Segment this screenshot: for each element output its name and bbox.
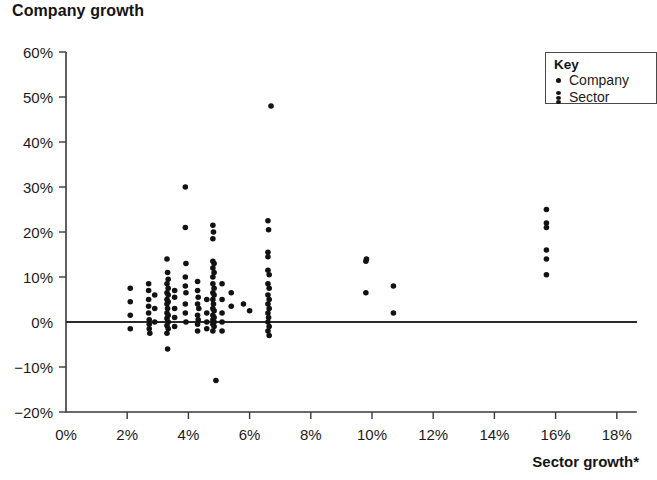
data-point bbox=[544, 207, 550, 213]
data-point bbox=[195, 279, 201, 285]
data-point bbox=[204, 310, 210, 316]
data-point bbox=[268, 103, 274, 109]
data-point bbox=[363, 290, 369, 296]
data-point bbox=[172, 306, 178, 312]
data-point bbox=[172, 288, 178, 294]
data-point bbox=[544, 256, 550, 262]
data-point bbox=[183, 261, 189, 267]
data-point bbox=[241, 301, 247, 307]
data-point bbox=[183, 283, 189, 289]
data-point bbox=[204, 319, 210, 325]
sector-dot-stack-marker-icon bbox=[554, 91, 563, 104]
legend-label-sector: Sector bbox=[569, 89, 609, 106]
data-point bbox=[152, 319, 158, 325]
legend-title: Key bbox=[554, 57, 656, 72]
data-point bbox=[544, 225, 550, 231]
data-point bbox=[172, 294, 178, 300]
y-axis-tick-label: 20% bbox=[23, 224, 53, 241]
data-point bbox=[146, 297, 152, 303]
data-points-layer bbox=[127, 103, 549, 383]
data-point bbox=[210, 222, 216, 228]
y-axis-tick-label: −10% bbox=[14, 359, 53, 376]
legend-item-sector: Sector bbox=[554, 89, 656, 106]
y-axis-tick-label: −20% bbox=[14, 404, 53, 421]
y-axis-tick-label: 60% bbox=[23, 44, 53, 61]
data-point bbox=[183, 310, 189, 316]
data-point bbox=[213, 378, 219, 384]
company-dot-marker-icon bbox=[554, 78, 563, 83]
data-point bbox=[211, 229, 217, 235]
axis-spine bbox=[66, 52, 637, 412]
y-axis-tick-label: 10% bbox=[23, 269, 53, 286]
data-point bbox=[265, 254, 271, 260]
y-axis-tick-group: 60%50%40%30%20%10%0%−10%−20% bbox=[14, 44, 66, 421]
x-axis-title: Sector growth* bbox=[532, 453, 639, 470]
legend-item-company: Company bbox=[554, 72, 656, 89]
data-point bbox=[195, 294, 201, 300]
data-point bbox=[183, 301, 189, 307]
data-point bbox=[228, 290, 234, 296]
data-point bbox=[172, 315, 178, 321]
data-point bbox=[266, 227, 272, 233]
data-point bbox=[152, 292, 158, 298]
x-axis-tick-label: 14% bbox=[479, 426, 509, 443]
data-point bbox=[164, 256, 170, 262]
data-point bbox=[219, 297, 225, 303]
y-axis-tick-label: 30% bbox=[23, 179, 53, 196]
data-point bbox=[228, 303, 234, 309]
data-point bbox=[146, 288, 152, 294]
x-axis-tick-group: 0%2%4%6%8%10%12%14%16%18% bbox=[55, 412, 632, 443]
data-point bbox=[204, 326, 210, 332]
data-point bbox=[147, 330, 153, 336]
legend-key-box: Key Company Sector bbox=[545, 52, 657, 104]
data-point bbox=[391, 310, 397, 316]
x-axis-tick-label: 4% bbox=[178, 426, 200, 443]
data-point bbox=[183, 225, 189, 231]
data-point bbox=[195, 321, 201, 327]
data-point bbox=[219, 319, 225, 325]
y-axis-tick-label: 40% bbox=[23, 134, 53, 151]
data-point bbox=[127, 326, 133, 332]
data-point bbox=[172, 324, 178, 330]
x-axis-tick-label: 12% bbox=[418, 426, 448, 443]
x-axis-tick-label: 0% bbox=[55, 426, 77, 443]
data-point bbox=[210, 236, 216, 242]
data-point bbox=[265, 218, 271, 224]
data-point bbox=[219, 310, 225, 316]
data-point bbox=[165, 270, 171, 276]
data-point bbox=[364, 256, 370, 262]
data-point bbox=[127, 312, 133, 318]
x-axis-tick-label: 18% bbox=[602, 426, 632, 443]
data-point bbox=[183, 184, 189, 190]
data-point bbox=[127, 285, 133, 291]
data-point bbox=[195, 288, 201, 294]
data-point bbox=[127, 299, 133, 305]
data-point bbox=[391, 283, 397, 289]
data-point bbox=[544, 247, 550, 253]
data-point bbox=[183, 319, 189, 325]
data-point bbox=[544, 272, 550, 278]
data-point bbox=[152, 306, 158, 312]
data-point bbox=[165, 346, 171, 352]
x-axis-tick-label: 2% bbox=[116, 426, 138, 443]
data-point bbox=[219, 281, 225, 287]
data-point bbox=[210, 274, 216, 280]
data-point bbox=[219, 328, 225, 334]
x-axis-tick-label: 10% bbox=[357, 426, 387, 443]
data-point bbox=[266, 285, 272, 291]
data-point bbox=[210, 328, 216, 334]
y-axis-tick-label: 50% bbox=[23, 89, 53, 106]
x-axis-tick-label: 16% bbox=[541, 426, 571, 443]
data-point bbox=[183, 290, 189, 296]
data-point bbox=[266, 272, 272, 278]
x-axis-tick-label: 8% bbox=[300, 426, 322, 443]
y-axis-tick-label: 0% bbox=[31, 314, 53, 331]
data-point bbox=[146, 303, 152, 309]
legend-label-company: Company bbox=[569, 72, 629, 89]
data-point bbox=[247, 308, 253, 314]
data-point bbox=[146, 310, 152, 316]
data-point bbox=[195, 328, 201, 334]
data-point bbox=[196, 306, 202, 312]
